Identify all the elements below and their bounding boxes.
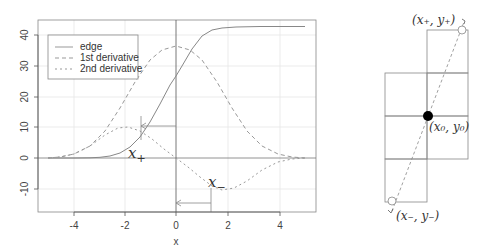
second-derivative-curve bbox=[48, 127, 305, 190]
left-plot: x+ x− edge 1st derivative 2nd derivative bbox=[19, 20, 316, 247]
svg-text:-10: -10 bbox=[19, 181, 30, 196]
svg-text:0: 0 bbox=[173, 220, 179, 231]
y-tick-labels: 40 30 20 10 0 -10 bbox=[19, 29, 30, 196]
right-diagram: (x₊, y₊) (x₀, y₀) (x₋, y₋) bbox=[385, 13, 469, 223]
point-plus bbox=[458, 26, 466, 34]
svg-text:-2: -2 bbox=[121, 220, 130, 231]
y-axis bbox=[34, 35, 38, 189]
figure: x+ x− edge 1st derivative 2nd derivative bbox=[0, 0, 484, 252]
label-zero: (x₀, y₀) bbox=[429, 120, 469, 134]
svg-text:4: 4 bbox=[277, 220, 283, 231]
point-minus bbox=[388, 197, 396, 205]
svg-text:30: 30 bbox=[19, 60, 30, 72]
x-axis-label: x bbox=[174, 236, 179, 247]
legend-second-derivative: 2nd derivative bbox=[80, 63, 143, 74]
x-minus-annotation bbox=[176, 188, 211, 212]
svg-text:2: 2 bbox=[225, 220, 231, 231]
svg-text:20: 20 bbox=[19, 91, 30, 103]
label-minus: (x₋, y₋) bbox=[396, 209, 440, 223]
x-axis bbox=[74, 212, 280, 216]
label-plus: (x₊, y₊) bbox=[412, 13, 456, 27]
legend-first-derivative: 1st derivative bbox=[80, 52, 139, 63]
x-tick-labels: -4 -2 0 2 4 bbox=[70, 220, 284, 231]
legend-edge: edge bbox=[80, 41, 103, 52]
x-plus-label: x+ bbox=[128, 144, 146, 165]
x-minus-label: x− bbox=[208, 173, 226, 194]
svg-text:0: 0 bbox=[19, 155, 30, 161]
legend: edge 1st derivative 2nd derivative bbox=[48, 35, 143, 79]
svg-text:40: 40 bbox=[19, 29, 30, 41]
svg-text:-4: -4 bbox=[70, 220, 79, 231]
svg-text:10: 10 bbox=[19, 121, 30, 133]
